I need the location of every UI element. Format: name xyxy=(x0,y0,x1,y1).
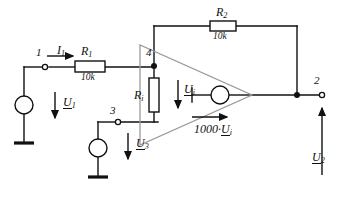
resistor-r2-label: R2 xyxy=(216,5,227,20)
schematic-canvas xyxy=(0,0,361,198)
voltage-u2-name: U xyxy=(312,152,321,164)
current-i1-sub: 1 xyxy=(61,49,65,58)
voltage-u3-name: U xyxy=(136,138,145,150)
voltage-ui-sub: i xyxy=(193,88,195,97)
resistor-ri-body xyxy=(149,78,159,112)
node-label-4: 4 xyxy=(146,46,152,58)
voltage-source-u3-symbol xyxy=(89,139,107,157)
resistor-r2-sub: 2 xyxy=(223,11,227,20)
resistor-r2-body xyxy=(210,21,236,31)
dependent-source-gain: 1000 xyxy=(194,122,218,136)
dependent-source-expression: 1000·Ui xyxy=(194,122,232,137)
terminal-node3 xyxy=(115,119,120,124)
voltage-source-u1-symbol xyxy=(15,96,33,114)
resistor-ri-sub: i xyxy=(141,94,143,103)
node-label-3: 3 xyxy=(110,104,116,116)
voltage-ui-name: U xyxy=(184,84,193,96)
voltage-u3-sub: 3 xyxy=(145,142,149,151)
node-label-2: 2 xyxy=(314,74,320,86)
resistor-r1-value: 10k xyxy=(81,72,95,82)
dependent-source-symbol xyxy=(211,86,229,104)
resistor-ri-label: Ri xyxy=(134,88,144,103)
resistor-r2-value: 10k xyxy=(213,31,227,41)
dependent-source-var: U xyxy=(221,124,230,136)
node-label-1: 1 xyxy=(36,46,42,58)
resistor-r1-sub: 1 xyxy=(88,50,92,59)
junction-dot-node4 xyxy=(151,63,157,69)
voltage-u1-sub: 1 xyxy=(72,101,76,110)
resistor-r1-label: R1 xyxy=(81,44,92,59)
voltage-u2-label: U2 xyxy=(312,150,325,165)
terminal-node2 xyxy=(319,92,324,97)
voltage-u1-label: U1 xyxy=(63,95,76,110)
current-i1-label: I1 xyxy=(57,43,65,58)
voltage-u1-name: U xyxy=(63,97,72,109)
circuit-diagram: 1 4 3 2 R1 10k R2 10k Ri I1 Ui U1 U3 U2 … xyxy=(0,0,361,198)
terminal-node1 xyxy=(42,64,47,69)
resistor-r1-body xyxy=(75,61,105,72)
voltage-u3-label: U3 xyxy=(136,136,149,151)
junction-dot-output xyxy=(294,92,300,98)
voltage-ui-label: Ui xyxy=(184,82,195,97)
voltage-u2-sub: 2 xyxy=(321,156,325,165)
dependent-source-var-sub: i xyxy=(230,128,232,137)
